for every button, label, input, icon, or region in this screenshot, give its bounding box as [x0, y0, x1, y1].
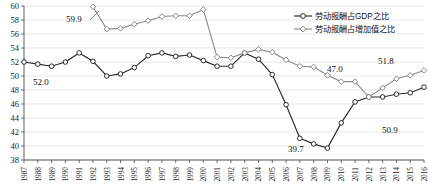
data-point-marker — [298, 136, 303, 141]
data-point-marker — [422, 85, 427, 90]
y-axis-ticks: 384042444648505254565860 — [11, 1, 25, 165]
data-point-marker — [187, 53, 192, 58]
y-tick-label: 38 — [11, 155, 20, 165]
data-point-marker — [118, 26, 124, 32]
x-tick-label: 2005 — [268, 167, 277, 182]
x-tick-label: 2016 — [420, 167, 428, 182]
x-tick-label: 2008 — [310, 167, 319, 182]
x-tick-label: 1994 — [117, 167, 126, 182]
data-point-marker — [104, 74, 109, 79]
data-point-marker — [173, 54, 178, 59]
x-tick-label: 2012 — [365, 167, 374, 182]
data-point-marker — [380, 95, 385, 100]
x-tick-label: 1996 — [144, 167, 153, 182]
x-axis-ticks: 1987198819891990199119921993199419951996… — [20, 160, 428, 182]
y-tick-label: 46 — [11, 99, 20, 109]
y-tick-label: 42 — [11, 127, 20, 137]
legend-marker — [300, 26, 306, 32]
y-tick-label: 56 — [11, 29, 20, 39]
data-point-marker — [325, 146, 330, 151]
data-point-marker — [49, 64, 54, 69]
data-point-marker — [159, 14, 165, 20]
data-point-marker — [256, 47, 262, 53]
legend-marker — [301, 14, 306, 19]
data-point-marker — [229, 64, 234, 69]
data-point-marker — [297, 63, 303, 69]
chart-legend: 劳动报酬占GDP之比劳动报酬占增加值之比 — [294, 11, 395, 34]
legend-item-label: 劳动报酬占增加值之比 — [315, 24, 395, 34]
data-point-marker — [408, 91, 413, 96]
data-point-marker — [284, 102, 289, 107]
data-point-marker — [35, 62, 40, 67]
x-tick-label: 2001 — [213, 167, 222, 182]
x-tick-label: 1991 — [75, 167, 84, 182]
data-point-marker — [173, 13, 179, 19]
data-point-marker — [269, 49, 275, 55]
data-label: 39.7 — [288, 144, 304, 154]
data-point-marker — [145, 18, 151, 24]
data-point-marker — [311, 142, 316, 147]
data-point-marker — [201, 58, 206, 63]
data-point-marker — [214, 54, 220, 60]
y-tick-label: 50 — [11, 71, 20, 81]
x-tick-label: 2000 — [199, 167, 208, 182]
data-point-marker — [353, 100, 358, 105]
x-tick-label: 2004 — [254, 167, 263, 182]
data-point-marker — [77, 51, 82, 56]
x-tick-label: 2003 — [241, 167, 250, 182]
data-label: 47.0 — [327, 64, 343, 74]
x-tick-label: 2006 — [282, 167, 291, 182]
data-point-marker — [104, 26, 110, 32]
x-tick-label: 1988 — [34, 167, 43, 182]
data-point-marker — [63, 60, 68, 65]
chart-container: 384042444648505254565860 198719881989199… — [0, 0, 428, 196]
x-tick-label: 1989 — [48, 167, 57, 182]
data-point-marker — [215, 64, 220, 69]
data-point-marker — [160, 51, 165, 56]
series-line-1 — [24, 53, 424, 148]
data-point-marker — [339, 121, 344, 126]
data-point-marker — [394, 92, 399, 97]
x-tick-label: 2014 — [392, 167, 401, 182]
x-tick-label: 2011 — [351, 167, 360, 182]
data-point-marker — [22, 60, 27, 65]
data-point-marker — [311, 64, 317, 70]
x-tick-label: 1990 — [61, 167, 70, 182]
line-chart: 384042444648505254565860 198719881989199… — [0, 0, 428, 196]
data-point-marker — [118, 72, 123, 77]
data-point-marker — [256, 57, 261, 62]
data-point-marker — [421, 68, 427, 74]
x-tick-label: 2009 — [323, 167, 332, 182]
x-tick-label: 1995 — [130, 167, 139, 182]
data-point-marker — [228, 55, 234, 61]
y-tick-label: 58 — [11, 15, 20, 25]
legend-item-label: 劳动报酬占GDP之比 — [315, 11, 389, 21]
data-point-marker — [270, 72, 275, 77]
data-point-marker — [201, 7, 207, 13]
x-tick-label: 1992 — [89, 167, 98, 182]
data-label: 59.9 — [66, 14, 82, 24]
y-tick-label: 48 — [11, 85, 20, 95]
data-label: 52.0 — [33, 77, 49, 87]
data-point-marker — [338, 79, 344, 85]
y-tick-label: 52 — [11, 57, 20, 67]
y-tick-label: 54 — [11, 43, 20, 53]
data-point-marker — [90, 4, 96, 10]
x-tick-label: 2007 — [296, 167, 305, 182]
data-point-marker — [146, 53, 151, 58]
x-tick-label: 1987 — [20, 167, 29, 182]
x-tick-label: 1997 — [158, 167, 167, 182]
data-label: 50.9 — [382, 125, 398, 135]
x-tick-label: 2015 — [406, 167, 415, 182]
x-tick-label: 2010 — [337, 167, 346, 182]
x-tick-label: 2013 — [379, 167, 388, 182]
y-tick-label: 60 — [11, 1, 20, 11]
data-point-marker — [91, 59, 96, 64]
data-point-marker — [407, 73, 413, 79]
data-label: 51.8 — [378, 56, 394, 66]
x-tick-label: 1993 — [103, 167, 112, 182]
y-tick-label: 40 — [11, 141, 20, 151]
x-tick-label: 1999 — [186, 167, 195, 182]
data-point-marker — [187, 13, 193, 19]
x-tick-label: 1998 — [172, 167, 181, 182]
